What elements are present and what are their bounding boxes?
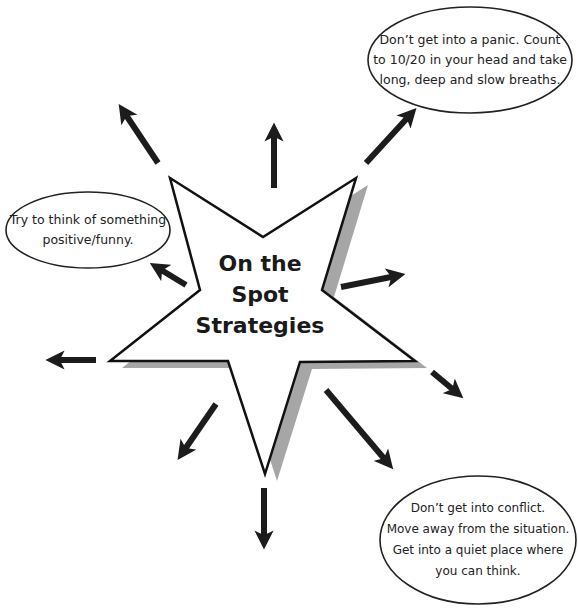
bubble-positive-line: Try to think of something [10,210,166,230]
center-title: On the Spot Strategies [185,248,335,341]
bubble-panic: Don’t get into a panic. Count to 10/20 i… [368,10,572,110]
center-title-line: On the [185,248,335,279]
arrow-down-right-icon [326,390,387,462]
arrow-right-icon [341,276,396,287]
bubble-conflict-line: you can think. [387,561,570,582]
bubble-panic-line: Don’t get into a panic. Count [373,30,567,50]
bubble-conflict-line: Don’t get into conflict. [387,498,570,519]
arrow-up-left-icon [124,112,158,163]
bubble-conflict-line: Move away from the situation. [387,519,570,540]
bubble-conflict-line: Get into a quiet place where [387,540,570,561]
arrow-up-right-icon [366,115,410,163]
bubble-panic-line: to 10/20 in your head and take [373,50,567,70]
center-title-line: Spot [185,279,335,310]
arrow-left-upper-icon [158,268,186,285]
bubble-positive: Try to think of something positive/funny… [6,192,170,268]
center-title-line: Strategies [185,310,335,341]
arrow-down-left-icon [183,404,216,452]
bubble-positive-line: positive/funny. [10,230,166,250]
arrow-down-right-small-icon [432,372,456,392]
bubble-conflict: Don’t get into conflict. Move away from … [380,476,576,604]
bubble-panic-line: long, deep and slow breaths. [373,70,567,90]
